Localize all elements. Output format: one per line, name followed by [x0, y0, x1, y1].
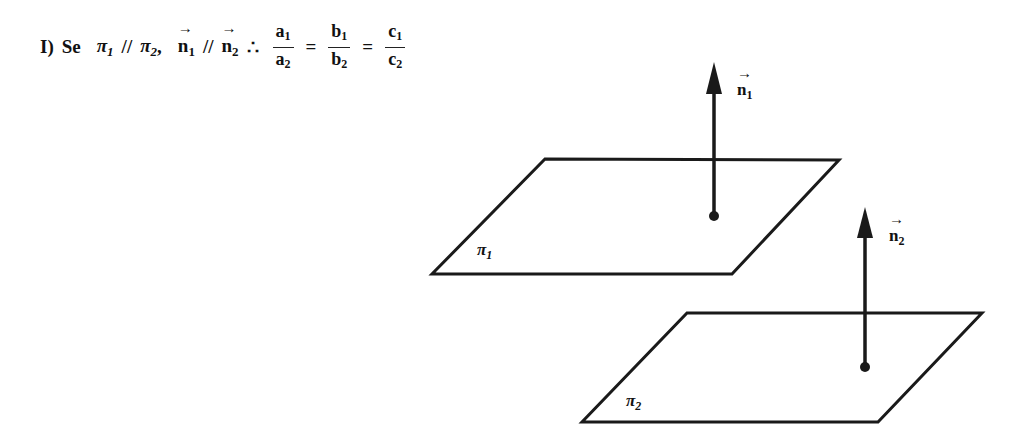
point-on-plane-1 — [709, 211, 719, 221]
plane-1-label: π1 — [477, 240, 492, 263]
arrowhead-2-icon — [857, 207, 873, 238]
plane-2 — [582, 313, 982, 422]
plane-1 — [432, 159, 839, 274]
point-on-plane-2 — [860, 362, 870, 372]
plane-2-label: π2 — [626, 391, 641, 414]
normal-2-label: n2 — [889, 226, 904, 249]
normal-1-label: n1 — [737, 80, 752, 103]
arrowhead-1-icon — [706, 62, 722, 94]
parallel-planes-diagram — [0, 0, 1018, 446]
